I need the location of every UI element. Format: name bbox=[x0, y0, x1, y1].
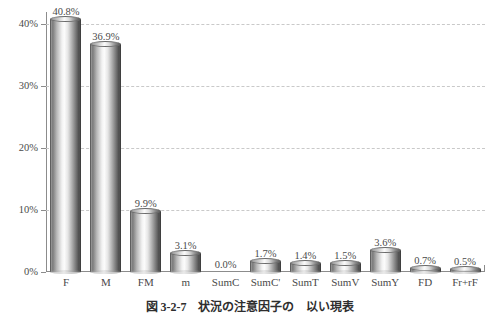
bar-slot[interactable]: 0.5% bbox=[445, 12, 485, 272]
figure-caption: 図 3-2-7 状況の注意因子の 以い現表 bbox=[0, 300, 500, 313]
y-axis-tick-label: 20% bbox=[19, 143, 38, 154]
x-axis-category-label: SumY bbox=[365, 276, 405, 288]
bar[interactable] bbox=[330, 263, 361, 272]
bar[interactable] bbox=[50, 19, 81, 272]
bar-slot[interactable]: 36.9% bbox=[86, 12, 126, 272]
bar[interactable] bbox=[410, 268, 441, 272]
bar[interactable] bbox=[130, 211, 161, 272]
bar[interactable] bbox=[450, 269, 481, 272]
bar-chart: 0%10%20%30%40% 40.8%36.9%9.9%3.1%0.0%1.7… bbox=[0, 0, 500, 313]
bar-series: 40.8%36.9%9.9%3.1%0.0%1.7%1.4%1.5%3.6%0.… bbox=[46, 12, 485, 272]
bar-value-label: 0.0% bbox=[215, 259, 237, 272]
x-axis-category-label: FM bbox=[126, 276, 166, 288]
bar-slot[interactable]: 40.8% bbox=[46, 12, 86, 272]
bar[interactable] bbox=[370, 250, 401, 272]
x-axis-category-label: SumC' bbox=[246, 276, 286, 288]
bar-slot[interactable]: 1.5% bbox=[325, 12, 365, 272]
x-axis-labels: FMFMmSumCSumC'SumTSumVSumYFDFr+rF bbox=[46, 276, 485, 288]
y-axis-tick-label: 10% bbox=[19, 205, 38, 216]
x-axis-category-label: SumT bbox=[285, 276, 325, 288]
bar-slot[interactable]: 1.4% bbox=[285, 12, 325, 272]
y-axis-tick-label: 30% bbox=[19, 81, 38, 92]
x-axis-category-label: SumV bbox=[325, 276, 365, 288]
y-axis-tick bbox=[41, 272, 46, 273]
y-axis-tick-label: 0% bbox=[24, 267, 38, 278]
bar-slot[interactable]: 0.7% bbox=[405, 12, 445, 272]
bar-slot[interactable]: 3.6% bbox=[365, 12, 405, 272]
bar[interactable] bbox=[90, 44, 121, 272]
bar[interactable] bbox=[290, 263, 321, 272]
plot-area: 0%10%20%30%40% 40.8%36.9%9.9%3.1%0.0%1.7… bbox=[46, 12, 485, 272]
bar-slot[interactable]: 9.9% bbox=[126, 12, 166, 272]
bar-slot[interactable]: 1.7% bbox=[246, 12, 286, 272]
bar[interactable] bbox=[250, 261, 281, 272]
x-axis-category-label: FD bbox=[405, 276, 445, 288]
bar-slot[interactable]: 0.0% bbox=[206, 12, 246, 272]
x-axis-category-label: m bbox=[166, 276, 206, 288]
bar[interactable] bbox=[170, 253, 201, 272]
x-axis-category-label: SumC bbox=[206, 276, 246, 288]
x-axis-category-label: Fr+rF bbox=[445, 276, 485, 288]
x-axis-category-label: M bbox=[86, 276, 126, 288]
x-axis-category-label: F bbox=[46, 276, 86, 288]
y-axis-tick-label: 40% bbox=[19, 19, 38, 30]
bar-slot[interactable]: 3.1% bbox=[166, 12, 206, 272]
